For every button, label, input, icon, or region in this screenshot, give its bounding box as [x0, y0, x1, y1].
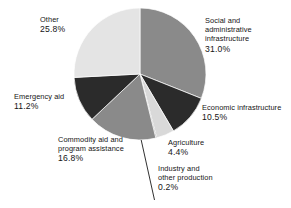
slice-label-line: Social and: [205, 16, 252, 25]
slice-label-other: Other 25.8%: [40, 15, 65, 35]
slice-label-line: Emergency aid: [14, 92, 64, 101]
pie-chart-figure: Social and administrative infrastructure…: [0, 0, 291, 208]
slice-label-line: Commodity aid and: [58, 135, 124, 144]
slice-value-commodity: 16.8%: [58, 153, 124, 164]
slice-label-line: Economic infrastructure: [202, 103, 281, 112]
slice-value-emergency: 11.2%: [14, 101, 64, 112]
slice-label-line: administrative: [205, 25, 252, 34]
slice-value-industry: 0.2%: [158, 182, 213, 193]
pie-slice-other: [74, 8, 140, 77]
slice-label-industry-and-other-production: Industry and other production 0.2%: [158, 164, 213, 193]
pie-slice-group: [74, 8, 206, 140]
slice-label-line: Other: [40, 15, 65, 24]
slice-label-social-and-administrative-infrastructure: Social and administrative infrastructure…: [205, 16, 252, 54]
industry-leader-line: [141, 140, 154, 200]
slice-label-economic-infrastructure: Economic infrastructure 10.5%: [202, 103, 281, 123]
slice-label-agriculture: Agriculture 4.4%: [168, 138, 204, 158]
slice-value-other: 25.8%: [40, 24, 65, 35]
slice-label-line: other production: [158, 173, 213, 182]
slice-label-line: infrastructure: [205, 34, 252, 43]
slice-label-line: program assistance: [58, 144, 124, 153]
slice-label-commodity-aid-and-program-assistance: Commodity aid and program assistance 16.…: [58, 135, 124, 164]
slice-value-economic: 10.5%: [202, 112, 281, 123]
slice-value-social: 31.0%: [205, 44, 252, 55]
slice-value-agriculture: 4.4%: [168, 147, 204, 158]
slice-label-emergency-aid: Emergency aid 11.2%: [14, 92, 64, 112]
slice-label-line: Industry and: [158, 164, 213, 173]
slice-label-line: Agriculture: [168, 138, 204, 147]
